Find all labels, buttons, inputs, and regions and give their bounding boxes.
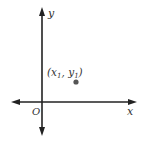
point-marker (73, 79, 78, 84)
y-axis-down-arrow-icon (39, 127, 45, 136)
x-axis-label: x (127, 105, 134, 118)
coordinate-plane: y x O (x1, y1) (0, 0, 144, 141)
origin-label: O (32, 106, 40, 117)
x-axis-left-arrow-icon (11, 99, 20, 105)
y-axis-label: y (47, 7, 55, 20)
point-label: (x1, y1) (47, 66, 83, 80)
y-axis-up-arrow-icon (39, 7, 45, 16)
